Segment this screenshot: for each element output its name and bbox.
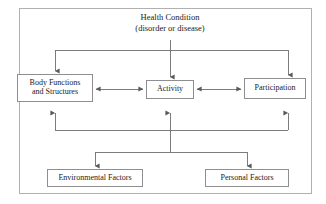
node-activity-label: Activity (157, 85, 183, 94)
node-personal-factors: Personal Factors (205, 169, 289, 187)
node-environmental-factors: Environmental Factors (47, 169, 143, 187)
node-health-condition: Health Condition (disorder or disease) (96, 12, 244, 34)
node-health-condition-label: Health Condition (disorder or disease) (96, 12, 244, 34)
node-body-functions-and-structures: Body Functions and Structures (17, 74, 93, 102)
node-participation: Participation (244, 78, 306, 99)
node-participation-label: Participation (255, 84, 296, 93)
node-personal-factors-label: Personal Factors (220, 174, 273, 183)
node-activity: Activity (146, 80, 194, 99)
node-body-functions-and-structures-label: Body Functions and Structures (30, 79, 81, 97)
diagram-canvas: Health Condition (disorder or disease) B… (0, 0, 326, 204)
node-environmental-factors-label: Environmental Factors (58, 174, 131, 183)
